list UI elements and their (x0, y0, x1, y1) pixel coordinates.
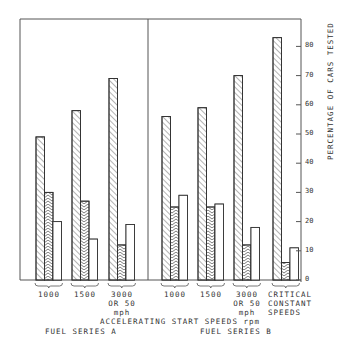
panel-label-a: FUEL SERIES A (45, 327, 135, 336)
y-axis (296, 46, 301, 280)
category-label-a1: 1000 (34, 290, 64, 299)
panel-label-b: FUEL SERIES B (200, 327, 290, 336)
y-tick-label: 20 (305, 217, 313, 225)
category-label-b4: CRITICAL CONSTANT SPEEDS (268, 290, 308, 317)
y-axis-label: PERCENTAGE OF CARS TESTED (326, 22, 335, 160)
y-tick-label: 60 (305, 100, 313, 108)
y-tick-label: 30 (305, 187, 313, 195)
y-tick-label: 50 (305, 129, 313, 137)
y-tick-label: 40 (305, 158, 313, 166)
category-label-a2: 1500 (70, 290, 100, 299)
category-label-b3: 3000 OR 50 mph (231, 290, 263, 317)
y-tick-label: 70 (305, 71, 313, 79)
y-tick-label: 10 (305, 246, 313, 254)
category-label-b2: 1500 (196, 290, 226, 299)
category-label-b1: 1000 (160, 290, 190, 299)
category-label-a3: 3000 OR 50 mph (106, 290, 138, 317)
bars (35, 38, 300, 288)
y-tick-label: 0 (305, 275, 309, 283)
y-tick-label: 80 (305, 41, 313, 49)
x-axis-label: ACCELERATING START SPEEDS rpm (80, 317, 280, 326)
